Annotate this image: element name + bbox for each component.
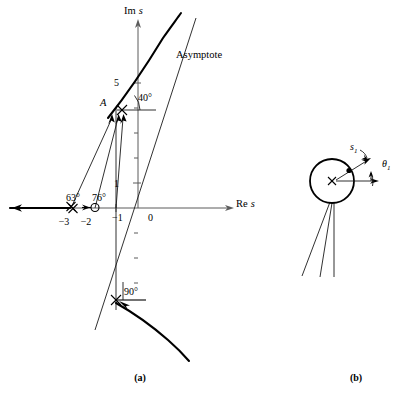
tick-label-re-minus2: −2: [81, 216, 92, 227]
imaginary-axis: [135, 19, 141, 208]
imaginary-axis-ticks: [133, 83, 141, 283]
tick-label-origin-0: 0: [148, 212, 153, 223]
panel-a-caption: (a): [134, 372, 146, 384]
angle-label-40: 40°: [138, 92, 152, 103]
ray-vertical-from-lower-pole: [116, 118, 123, 208]
angle-label-76: 76°: [92, 192, 106, 203]
s1-leader: [360, 150, 367, 158]
angle-label-90: 90°: [124, 286, 138, 297]
angle-label-63: 63°: [66, 192, 80, 203]
s1-point-marker: [346, 168, 351, 173]
tick-label-re-minus1: −1: [112, 212, 123, 223]
detail-ray-2: [320, 203, 332, 277]
ray-arrowhead-3: [120, 114, 126, 124]
theta1-label: θ1: [382, 158, 390, 172]
lower-locus-branch: [116, 303, 189, 361]
tick-label-im-5: 5: [114, 77, 119, 88]
real-axis: [10, 204, 234, 212]
tick-label-re-minus3: −3: [59, 216, 70, 227]
s1-label: s1: [350, 141, 357, 155]
panel-a: Ims Res 5 1 0 −1 −2 −3 40° 63° 76° 90° A…: [10, 5, 255, 384]
s1-vector: [336, 160, 368, 180]
imaginary-axis-label: Ims: [124, 5, 143, 16]
point-label-a: A: [99, 97, 107, 108]
panel-b: s1 θ1 (b): [302, 141, 390, 384]
asymptote-label: Asymptote: [176, 49, 222, 60]
root-locus-figure: Ims Res 5 1 0 −1 −2 −3 40° 63° 76° 90° A…: [0, 0, 418, 396]
tick-label-im-1: 1: [114, 178, 119, 189]
figure-svg: Ims Res 5 1 0 −1 −2 −3 40° 63° 76° 90° A…: [0, 0, 418, 396]
real-axis-label: Res: [236, 198, 255, 209]
detail-pole-marker: [328, 177, 336, 185]
panel-b-caption: (b): [350, 372, 362, 384]
